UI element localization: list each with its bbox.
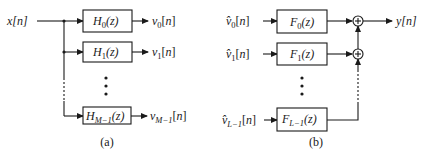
analysis-filter-bank: x[n] H0(z) v0[n] H1(z) v1[n] (6, 10, 186, 149)
input-label: x[n] (6, 14, 28, 28)
ellipsis-dots (300, 76, 303, 95)
output-label-y: y[n] (395, 14, 417, 28)
filter-label-h1: H1(z) (92, 45, 119, 61)
caption-a: (a) (100, 135, 113, 149)
filter-label-f1: F1(z) (289, 47, 314, 63)
output-label-vm1: vM−1[n] (150, 109, 186, 125)
ellipsis-dots (104, 76, 107, 95)
filter-bank-diagram: x[n] H0(z) v0[n] H1(z) v1[n] (0, 0, 429, 156)
fl1-route-line (327, 104, 358, 120)
output-label-v1: v1[n] (152, 45, 176, 61)
filter-label-f0: F0(z) (289, 15, 314, 31)
caption-b: (b) (309, 135, 323, 149)
adder-node-0 (353, 16, 363, 26)
output-label-v0: v0[n] (152, 14, 176, 30)
adder-node-1 (353, 49, 363, 59)
filter-label-h0: H0(z) (92, 14, 119, 30)
input-label-v0hat: v̂0[n] (226, 14, 250, 30)
input-label-vl1hat: v̂L−1[n] (222, 113, 256, 129)
input-label-v1hat: v̂1[n] (226, 47, 250, 63)
synthesis-filter-bank: v̂0[n] v̂1[n] v̂L−1[n] F0(z) F1(z) (222, 10, 417, 149)
